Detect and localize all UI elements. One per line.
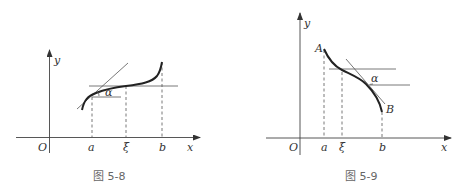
secant-line [346, 59, 385, 104]
figure-caption: 图 5-9 [345, 170, 377, 183]
origin-label: O [289, 141, 298, 154]
alpha-label: α [105, 86, 113, 99]
figure-5-9: O y x a ξ b A B α 图 5-9 [266, 13, 451, 183]
a-label: a [321, 141, 328, 154]
figure-caption: 图 5-8 [93, 170, 125, 183]
xi-label: ξ [123, 141, 130, 154]
point-B-label: B [385, 103, 394, 116]
b-label: b [379, 141, 386, 154]
origin-label: O [38, 141, 47, 154]
point-A-label: A [314, 42, 323, 55]
y-axis-label: y [303, 17, 311, 30]
a-label: a [88, 141, 95, 154]
x-axis-label: x [441, 141, 448, 154]
figure-5-8: O y x a ξ b α 图 5-8 [16, 50, 200, 183]
b-label: b [159, 141, 166, 154]
alpha-label: α [371, 72, 379, 85]
xi-label: ξ [339, 141, 346, 154]
figures-canvas: O y x a ξ b α 图 5-8 O y x a ξ b A B [0, 0, 458, 193]
x-axis-label: x [187, 141, 194, 154]
y-axis-label: y [53, 54, 61, 67]
